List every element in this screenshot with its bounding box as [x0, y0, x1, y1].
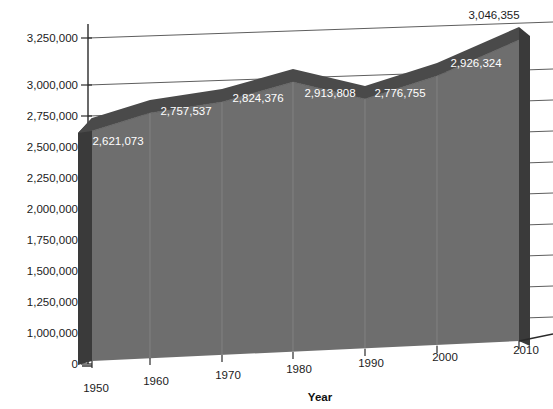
- x-tick-label: 1950: [83, 382, 109, 394]
- x-tick-label: 1970: [215, 369, 241, 381]
- x-tick-label: 1960: [143, 375, 169, 387]
- area-chart-3d: 0 1,000,000 1,250,000 1,500,000 1,750,00…: [0, 0, 553, 409]
- x-tick-label: 2010: [513, 344, 539, 356]
- data-label: 2,776,755: [374, 87, 425, 99]
- y-tick-label: 1,750,000: [27, 234, 78, 246]
- y-tick-label: 2,000,000: [27, 203, 78, 215]
- y-tick-label: 2,500,000: [27, 141, 78, 153]
- y-tick-label: 1,000,000: [27, 327, 78, 339]
- y-tick-label: 2,250,000: [27, 172, 78, 184]
- area-series-3d: [78, 27, 530, 365]
- y-tick-label: 0: [72, 358, 78, 370]
- x-tick-label: 1980: [286, 363, 312, 375]
- y-tick-label: 2,750,000: [27, 110, 78, 122]
- area-right-face: [519, 27, 530, 346]
- x-tick-label: 2000: [432, 351, 458, 363]
- data-label: 2,824,376: [232, 92, 283, 104]
- data-label: 3,046,355: [468, 9, 519, 21]
- x-tick-label: 1990: [358, 357, 384, 369]
- y-tick-label: 1,500,000: [27, 265, 78, 277]
- y-tick-label: 3,250,000: [27, 32, 78, 44]
- data-label: 2,757,537: [160, 105, 211, 117]
- y-axis-tick-labels: 0 1,000,000 1,250,000 1,500,000 1,750,00…: [27, 32, 78, 370]
- chart-container: 0 1,000,000 1,250,000 1,500,000 1,750,00…: [0, 0, 553, 409]
- y-tick-label: 3,000,000: [27, 79, 78, 91]
- data-label: 2,926,324: [450, 57, 502, 69]
- y-tick-label: 1,250,000: [27, 296, 78, 308]
- data-label: 2,621,073: [92, 135, 143, 147]
- data-label: 2,913,808: [304, 87, 355, 99]
- area-left-face: [78, 118, 92, 365]
- x-axis-title: Year: [308, 391, 333, 403]
